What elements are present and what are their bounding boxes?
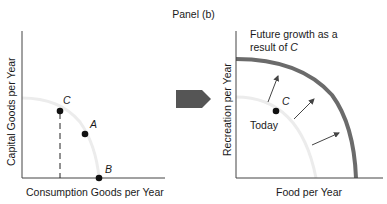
right-graph: C Today Future growth as a result of C R…: [221, 28, 383, 198]
panel-title: Panel (b): [0, 8, 387, 20]
future-growth-annotation-line1: Future growth as a: [250, 28, 338, 40]
future-growth-annotation-line2: result of C: [250, 41, 298, 53]
today-label: Today: [250, 119, 279, 131]
point-a-label: A: [89, 118, 97, 130]
point-b-label: B: [105, 163, 112, 175]
shift-arrow-2: [294, 99, 314, 119]
economics-ppc-figure: Panel (b) C A B Capital Goods per Year: [0, 0, 387, 204]
point-a: [82, 131, 89, 138]
diagram-canvas: C A B Capital Goods per Year Consumption…: [0, 0, 387, 204]
transition-arrow-icon: [176, 90, 211, 108]
point-b: [96, 175, 103, 182]
left-y-axis-label: Capital Goods per Year: [5, 57, 17, 166]
right-y-axis-label: Recreation per Year: [221, 63, 233, 156]
shift-arrow-3: [312, 133, 339, 145]
left-x-axis-label: Consumption Goods per Year: [26, 186, 164, 198]
annotation-italic-c: C: [290, 41, 298, 53]
point-c-right-label: C: [282, 95, 290, 107]
annotation-prefix: result of: [250, 41, 290, 53]
shift-arrow-1: [268, 76, 278, 102]
point-c-right: [273, 108, 280, 115]
right-x-axis-label: Food per Year: [276, 186, 342, 198]
left-graph: C A B Capital Goods per Year Consumption…: [5, 31, 165, 198]
point-c-left: [57, 108, 64, 115]
point-c-left-label: C: [63, 94, 71, 106]
